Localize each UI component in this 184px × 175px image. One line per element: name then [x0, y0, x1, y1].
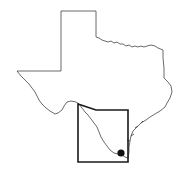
- coastline-detail: [127, 121, 143, 141]
- texas-outline: [17, 11, 172, 158]
- location-marker-dot: [117, 149, 124, 156]
- texas-map: [0, 0, 184, 175]
